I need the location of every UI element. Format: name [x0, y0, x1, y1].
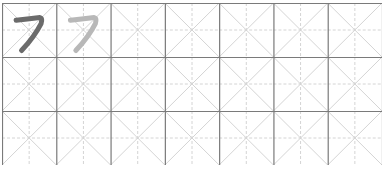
- practice-grid: [2, 3, 382, 165]
- grid-svg: [2, 3, 382, 165]
